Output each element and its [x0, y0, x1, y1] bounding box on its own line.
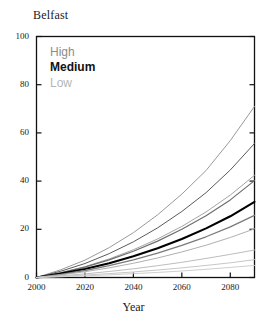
legend-item-high: High	[50, 45, 75, 59]
y-axis-tick-label: 40	[3, 175, 29, 185]
chart-container: Belfast 020406080100 2000202020402060208…	[0, 0, 267, 325]
x-axis-tick-label: 2040	[113, 282, 153, 292]
plot-area	[0, 0, 267, 325]
y-axis-tick-label: 100	[3, 31, 29, 41]
x-axis-tick-label: 2020	[65, 282, 105, 292]
series-lines	[37, 106, 255, 277]
y-axis-tick-label: 80	[3, 79, 29, 89]
legend-item-low: Low	[50, 76, 72, 90]
legend-item-medium: Medium	[50, 60, 95, 74]
y-axis-tick-label: 60	[3, 127, 29, 137]
chart-canvas	[0, 0, 267, 325]
x-axis-title: Year	[0, 300, 267, 315]
x-axis-tick-label: 2080	[210, 282, 250, 292]
x-axis-tick-label: 2000	[17, 282, 57, 292]
series-line	[37, 144, 255, 278]
y-axis-tick-label: 20	[3, 223, 29, 233]
series-line	[37, 181, 255, 278]
series-line	[37, 175, 255, 277]
x-axis-tick-label: 2060	[162, 282, 202, 292]
y-axis-tick-label: 0	[3, 272, 29, 282]
